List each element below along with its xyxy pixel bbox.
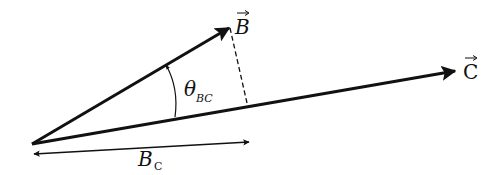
angle-arc xyxy=(166,65,176,117)
svg-text:B: B xyxy=(234,15,250,39)
angle-label: θ BC xyxy=(184,77,213,105)
svg-text:θ: θ xyxy=(184,77,196,101)
vector-b-label: B xyxy=(234,11,250,40)
projection-dashed-line xyxy=(230,28,247,103)
svg-text:C: C xyxy=(154,160,162,173)
vector-c-label: C xyxy=(463,56,478,85)
projection-label: B C xyxy=(137,147,162,173)
svg-text:C: C xyxy=(463,60,478,84)
svg-text:BC: BC xyxy=(195,92,213,105)
vector-projection-diagram: B C θ BC B C xyxy=(0,0,501,175)
svg-text:B: B xyxy=(137,147,153,171)
